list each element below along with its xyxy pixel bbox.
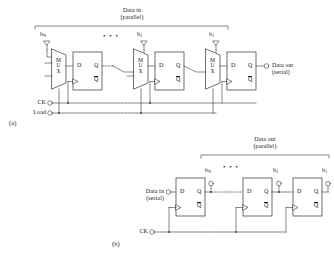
figure-canvas: Data in (parallel) • • • bN b2 b1 M U X … (0, 0, 334, 257)
part-b-ck-label: CK (118, 228, 148, 235)
part-a-load-bus (48, 89, 216, 115)
part-b-ff-1-d: D (297, 188, 301, 195)
part-b-ff-n-d: D (180, 188, 184, 195)
circuit-schematic (0, 0, 334, 257)
part-a-mux-2-label: M U X (135, 58, 146, 74)
part-b-ck-bus (150, 230, 286, 235)
part-a-ff-2-q: Q (176, 62, 180, 69)
part-a-load-label: Load (14, 109, 46, 116)
part-a-ff-n (68, 52, 102, 90)
part-a-input-label-bn: bN (40, 31, 46, 39)
part-b-parallel-bracket (201, 155, 329, 158)
part-b-output-tap-b2 (272, 181, 281, 193)
part-a-ff-n-qbar: Q (94, 76, 98, 83)
part-b-output-tap-bn (205, 181, 213, 193)
part-a-ff-2-qbar: Q (176, 76, 180, 83)
part-b-caption: (b) (112, 240, 120, 247)
part-a-data-in-label: Data in (parallel) (102, 7, 162, 21)
part-a-ff-n-d: D (77, 62, 81, 69)
part-a-ff-1-qbar: Q (248, 76, 252, 83)
part-b-ff-2-qbar: Q (264, 202, 268, 209)
part-a-ff-2 (150, 52, 184, 90)
part-a-mux-1-label: M U X (207, 58, 218, 74)
part-b-ff-n-q: Q (197, 188, 201, 195)
part-a-ck-label: CK (14, 99, 46, 106)
part-b-ff-1-qbar: Q (314, 202, 318, 209)
part-a-data-out-terminal (256, 64, 269, 69)
part-b-output-tap-b1 (322, 181, 330, 192)
part-a-input-terminal-bn (44, 41, 52, 57)
part-b-data-out-label: Data out (parallel) (235, 136, 295, 150)
part-b-ellipsis: • • • (216, 164, 246, 171)
part-b-ff-n-qbar: Q (197, 202, 201, 209)
part-b-data-in-terminal (166, 190, 176, 195)
part-a-wire-ff2-to-mux1 (184, 66, 206, 72)
part-b-output-label-b2: b2 (273, 167, 278, 175)
part-a-ff-2-d: D (159, 62, 163, 69)
part-a-input-label-b1: b1 (209, 31, 214, 39)
part-b-ff-1-q: Q (314, 188, 318, 195)
part-a-ellipsis: • • • (93, 33, 129, 40)
part-a-input-label-b2: b2 (137, 31, 142, 39)
part-b-data-in-label: Data in (serial) (106, 188, 164, 202)
part-a-data-out-label: Data out (serial) (272, 62, 293, 76)
part-b-ff-2-q: Q (264, 188, 268, 195)
part-a-ff-1-d: D (231, 62, 235, 69)
part-a-mux-n-label: M U X (53, 58, 64, 74)
part-b-output-label-b1: b1 (322, 167, 327, 175)
part-a-ff-1 (222, 52, 256, 90)
part-a-ff-1-q: Q (248, 62, 252, 69)
part-a-ff-n-q: Q (94, 62, 98, 69)
part-a-caption: (a) (9, 119, 17, 126)
part-b-ff-2-d: D (247, 188, 251, 195)
part-b-output-label-bn: bN (205, 167, 211, 175)
part-a-parallel-bracket (35, 26, 228, 29)
part-a-wire-to-mux2-lower (113, 66, 134, 72)
